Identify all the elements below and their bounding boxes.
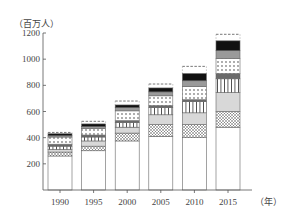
y-tick-label: 200 — [27, 159, 41, 169]
bar-segment — [182, 102, 206, 113]
bar-segment — [82, 137, 106, 141]
bar-segment — [82, 141, 106, 146]
y-tick-label: 600 — [27, 107, 41, 117]
stacked-bar-chart: 20040060080010001200 1990199520002005201… — [0, 0, 286, 217]
bar-segment — [48, 137, 72, 144]
y-axis: 20040060080010001200 — [22, 28, 46, 190]
x-tick-label: 1990 — [51, 197, 70, 207]
bar-segment — [115, 123, 139, 128]
bar-segment — [216, 79, 240, 93]
bar-segment — [182, 74, 206, 81]
bar-segment — [182, 125, 206, 138]
y-tick-label: 1000 — [22, 54, 41, 64]
bar-segment — [216, 51, 240, 59]
x-tick-label: 2010 — [185, 197, 204, 207]
bar-segment — [48, 156, 72, 190]
bar-segment — [149, 88, 173, 92]
bar-segment — [149, 125, 173, 137]
bar-segment — [48, 146, 72, 149]
bar-segment — [149, 115, 173, 125]
bar-segment — [216, 59, 240, 74]
bar-segment — [182, 87, 206, 100]
bar-segment — [216, 74, 240, 79]
bar-segment — [149, 108, 173, 115]
x-tick-label: 2015 — [219, 197, 238, 207]
bar-1995 — [82, 121, 106, 190]
bars — [48, 34, 240, 190]
bar-segment — [48, 152, 72, 156]
y-axis-unit-label: （百万人） — [14, 19, 59, 29]
bar-2010 — [182, 66, 206, 190]
bar-segment — [82, 151, 106, 190]
x-tick-label: 2005 — [152, 197, 171, 207]
bar-2000 — [115, 101, 139, 190]
bar-segment — [82, 146, 106, 151]
bar-segment — [115, 111, 139, 121]
bar-segment — [182, 81, 206, 87]
x-tick-label: 2000 — [118, 197, 137, 207]
bar-segment — [182, 138, 206, 190]
bar-segment — [216, 112, 240, 128]
y-tick-label: 800 — [27, 80, 41, 90]
bar-segment — [115, 133, 139, 141]
x-axis: 199019952000200520102015 — [43, 190, 252, 207]
bar-segment — [82, 124, 106, 127]
y-tick-label: 400 — [27, 133, 41, 143]
bar-segment — [115, 141, 139, 190]
bar-segment — [115, 108, 139, 111]
bar-2005 — [149, 84, 173, 190]
y-tick-label: 1200 — [22, 28, 41, 38]
bar-segment — [82, 129, 106, 136]
x-tick-label: 1995 — [85, 197, 104, 207]
bar-segment — [48, 149, 72, 152]
bar-2015 — [216, 34, 240, 190]
bar-segment — [182, 113, 206, 125]
bar-segment — [216, 127, 240, 190]
bar-segment — [149, 136, 173, 190]
x-axis-unit-label: （年） — [255, 196, 282, 207]
bar-segment — [48, 134, 72, 136]
bar-segment — [149, 96, 173, 106]
bar-segment — [216, 41, 240, 51]
bar-segment — [149, 92, 173, 96]
bar-segment — [216, 93, 240, 112]
bar-segment — [115, 127, 139, 133]
bar-segment — [115, 105, 139, 108]
bar-1990 — [48, 132, 72, 190]
